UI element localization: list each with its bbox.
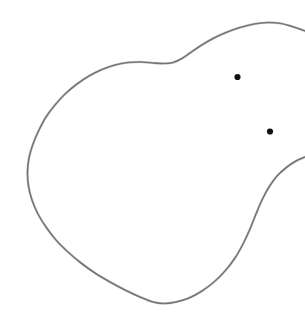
canvas-background [0, 0, 305, 314]
interior-point-marker [234, 74, 240, 80]
drawing-canvas [0, 0, 305, 314]
interior-point-marker [267, 128, 273, 134]
figure-root [0, 0, 305, 314]
